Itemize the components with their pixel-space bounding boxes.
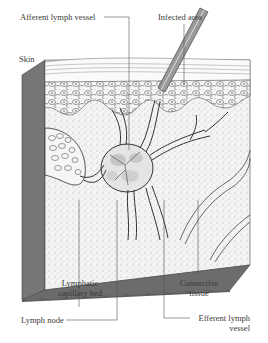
label-efferent-lymph-vessel-line1: Efferent lymph — [190, 313, 250, 323]
label-lymphatic-capillary-bed: Lymphatic capillary bed — [50, 278, 110, 298]
label-efferent-lymph-vessel: Efferent lymph vessel — [190, 313, 250, 333]
label-efferent-lymph-vessel-line2: vessel — [190, 323, 250, 333]
label-lymph-node: Lymph node — [21, 315, 64, 325]
label-lymphatic-capillary-bed-line1: Lymphatic — [50, 278, 110, 288]
label-skin: Skin — [19, 54, 35, 64]
label-lymphatic-capillary-bed-line2: capillary bed — [50, 288, 110, 298]
tissue-block-side — [22, 60, 45, 300]
label-infected-area: Infected area — [158, 12, 202, 22]
label-connective-tissue: Connective tissue — [172, 278, 226, 298]
label-connective-tissue-line2: tissue — [172, 288, 226, 298]
lymph-node — [101, 144, 153, 192]
label-connective-tissue-line1: Connective — [172, 278, 226, 288]
label-afferent-lymph-vessel: Afferent lymph vessel — [20, 12, 95, 22]
skin-cross-section-illustration — [0, 0, 268, 343]
